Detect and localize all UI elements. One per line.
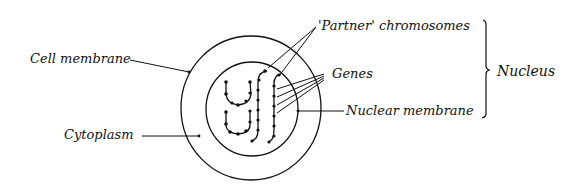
label-cytoplasm: Cytoplasm (64, 128, 134, 141)
label-genes: Genes (332, 67, 373, 80)
partner-leader-1 (268, 27, 316, 68)
cell-membrane-leader (130, 60, 189, 72)
label-nuclear-membrane: Nuclear membrane (346, 104, 474, 117)
genes-leader-4 (277, 80, 324, 113)
chromosome-long-right (268, 74, 281, 142)
nucleus-bracket (482, 20, 489, 118)
cell-diagram (0, 0, 580, 189)
cell-membrane-circle (181, 36, 321, 180)
label-cell-membrane: Cell membrane (30, 52, 131, 65)
genes-leader-3 (277, 78, 324, 105)
label-partner-chromosomes: 'Partner' chromosomes (318, 19, 470, 32)
label-nucleus: Nucleus (497, 64, 555, 78)
partner-leader-2 (282, 27, 316, 72)
